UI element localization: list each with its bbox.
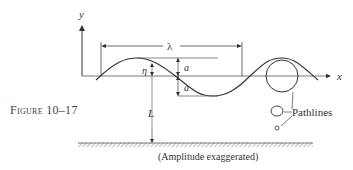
pathlines-label: Pathlines	[292, 106, 332, 118]
wavelength-label: λ	[167, 40, 173, 52]
amplitude-top-label: a	[184, 62, 189, 73]
pathlines: Pathlines	[266, 60, 332, 130]
amplitude-markers: a a	[176, 58, 189, 96]
x-axis-label: x	[336, 70, 342, 82]
amplitude-note: (Amplitude exaggerated)	[158, 151, 258, 163]
pathline-medium	[271, 106, 283, 116]
depth-marker: L	[147, 107, 154, 143]
wave-surface	[96, 58, 318, 96]
x-axis: x	[82, 70, 342, 82]
y-axis-label: y	[78, 8, 84, 20]
y-axis: y	[78, 8, 84, 76]
seabed: (Amplitude exaggerated)	[78, 143, 313, 163]
amplitude-bottom-label: a	[184, 82, 189, 93]
wave-diagram: y x λ η a a L	[0, 0, 353, 170]
elevation-label: η	[142, 65, 147, 76]
figure-caption: Figure 10–17	[10, 103, 78, 118]
depth-label: L	[147, 107, 154, 119]
pathline-small	[275, 126, 279, 130]
